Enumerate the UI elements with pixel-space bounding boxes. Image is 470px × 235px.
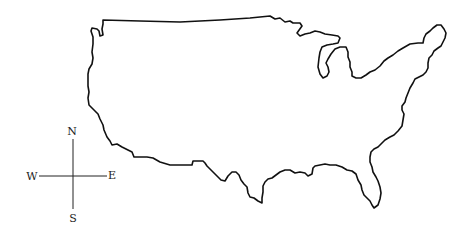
compass-north-label: N: [67, 126, 77, 137]
compass-east-label: E: [108, 170, 116, 181]
compass-rose: [0, 0, 470, 235]
compass-west-label: W: [26, 171, 37, 182]
compass-south-label: S: [69, 213, 77, 224]
